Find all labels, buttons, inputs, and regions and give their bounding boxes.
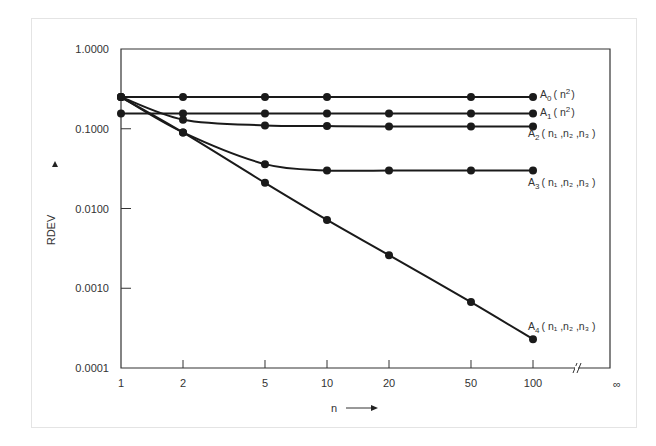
data-point (261, 179, 269, 187)
x-tick-label: 1 (118, 377, 124, 389)
data-point (529, 110, 537, 118)
x-tick-label: 100 (524, 377, 542, 389)
data-point (385, 122, 393, 130)
data-point (385, 251, 393, 259)
data-point (529, 166, 537, 174)
x-tick-label: 2 (180, 377, 186, 389)
x-tick-label: 20 (383, 377, 395, 389)
y-tick-label: 1.0000 (75, 43, 109, 55)
data-point (323, 110, 331, 118)
y-tick-label: 0.0001 (75, 362, 109, 374)
series-label: A0( n2) (540, 87, 575, 103)
data-point (261, 110, 269, 118)
data-point (467, 93, 475, 101)
data-point (323, 216, 331, 224)
x-tick-label: 10 (321, 377, 333, 389)
data-point (467, 122, 475, 130)
series-0 (117, 93, 537, 101)
series-label: A4( n₁ ,n₂ ,n₃ ) (528, 320, 595, 335)
data-point (117, 93, 125, 101)
data-point (323, 93, 331, 101)
y-tick-label: 0.0100 (75, 203, 109, 215)
data-point (117, 110, 125, 118)
data-point (179, 93, 187, 101)
data-point (467, 298, 475, 306)
data-point (179, 116, 187, 124)
data-point (529, 93, 537, 101)
series-label: A2( n₁ ,n₂ ,n₃ ) (528, 127, 595, 142)
series-label: A1( n2) (540, 105, 575, 121)
data-point (323, 122, 331, 130)
x-axis-arrow-icon (346, 405, 378, 411)
data-point (467, 110, 475, 118)
x-tick-label: 50 (465, 377, 477, 389)
series-4 (117, 93, 537, 343)
data-point (529, 335, 537, 343)
x-axis-label: n (331, 402, 337, 414)
y-axis-label: RDEV (45, 214, 57, 245)
y-tick-label: 0.0010 (75, 282, 109, 294)
y-axis-arrow-icon (52, 161, 58, 167)
data-point (467, 166, 475, 174)
data-point (261, 121, 269, 129)
data-point (323, 166, 331, 174)
series-group (117, 93, 537, 343)
data-point (261, 93, 269, 101)
rdev-chart: 1.00000.10000.01000.00100.00011251020501… (0, 0, 656, 446)
data-point (385, 166, 393, 174)
x-tick-label: 5 (262, 377, 268, 389)
data-point (385, 110, 393, 118)
series-labels: A0( n2)A1( n2)A2( n₁ ,n₂ ,n₃ )A3( n₁ ,n₂… (528, 87, 595, 335)
data-point (179, 128, 187, 136)
data-point (261, 160, 269, 168)
y-tick-label: 0.1000 (75, 123, 109, 135)
series-1 (117, 110, 537, 118)
series-label: A3( n₁ ,n₂ ,n₃ ) (528, 176, 595, 191)
x-break-label: ∞ (613, 378, 621, 390)
